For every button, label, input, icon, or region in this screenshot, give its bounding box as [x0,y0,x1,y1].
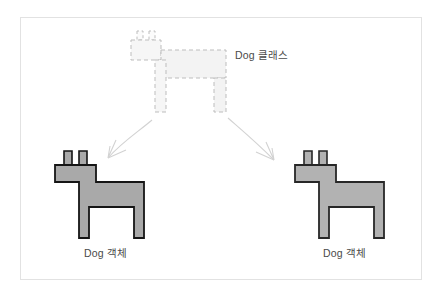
arrow-left-shaft [108,120,152,158]
class-back-leg [214,78,226,112]
class-head [131,40,161,60]
arrow-class-to-left-object-icon [108,120,152,158]
arrow-right-shaft [228,118,274,160]
left-dog-right-ear [79,151,87,166]
left-dog-ear-guide [56,153,96,166]
left-dog-shape-icon [55,151,144,238]
diagram-root: Dog 클래스 Dog 객체 Dog 객체 [0,0,442,299]
right-dog-right-ear [319,151,327,166]
right-dog-shape-icon [295,151,384,238]
class-right-ear [149,31,155,40]
right-object-label: Dog 객체 [323,245,366,260]
dashed-dog-outline-icon [131,31,226,112]
left-dog-body [55,165,144,238]
left-dog-left-ear [64,151,72,166]
diagram-canvas [0,0,442,299]
right-dog-body [295,165,384,238]
class-left-ear [137,31,143,40]
arrow-class-to-right-object-icon [228,118,274,160]
class-label: Dog 클래스 [235,47,289,62]
left-object-label: Dog 객체 [84,245,127,260]
class-front-leg [155,60,166,112]
right-dog-left-ear [304,151,312,166]
class-body [161,50,226,78]
